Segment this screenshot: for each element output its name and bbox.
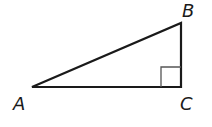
triangle-diagram: A B C	[0, 0, 212, 127]
right-angle-marker	[161, 67, 181, 87]
vertex-label-c: C	[180, 93, 193, 114]
vertex-label-b: B	[182, 0, 194, 21]
triangle-abc	[32, 23, 181, 87]
vertex-label-a: A	[12, 93, 25, 114]
